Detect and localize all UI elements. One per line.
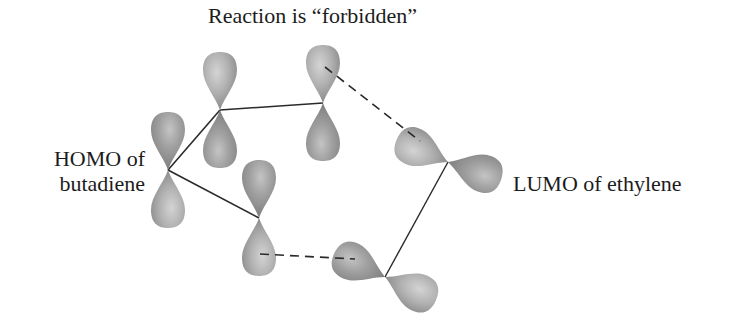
butadiene-homo-orbitals — [151, 45, 340, 276]
orbital-lobe-left — [389, 122, 456, 179]
orbital-lobe-bottom — [242, 218, 276, 276]
p-orbital-c3 — [306, 45, 340, 161]
diagram-stage: Reaction is “forbidden” HOMO of butadien… — [0, 0, 738, 335]
bond-c5-c6 — [385, 162, 448, 277]
orbital-lobe-right — [377, 260, 444, 318]
orbital-lobe-top — [242, 160, 276, 218]
orbital-interactions — [260, 67, 420, 259]
bond-c2-c3 — [220, 103, 323, 110]
orbital-lobe-right — [442, 144, 507, 197]
butadiene-bonds — [168, 103, 323, 218]
orbital-lobe-top — [306, 45, 340, 103]
orbital-lobe-top — [151, 112, 185, 170]
p-orbital-c2 — [203, 52, 237, 168]
p-orbital-c4 — [242, 160, 276, 276]
orbital-lobe-bottom — [151, 170, 185, 228]
p-orbital-c5 — [389, 122, 507, 198]
orbital-lobe-left — [326, 236, 393, 294]
orbital-lobe-bottom — [306, 103, 340, 161]
p-orbital-c1 — [151, 112, 185, 228]
orbital-lobe-bottom — [203, 110, 237, 168]
orbital-lobe-top — [203, 52, 237, 110]
p-orbital-c6 — [326, 236, 444, 318]
orbital-diagram-svg — [0, 0, 738, 335]
